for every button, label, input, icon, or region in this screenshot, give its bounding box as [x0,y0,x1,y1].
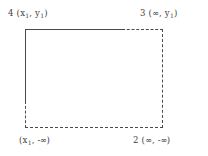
rectangle-edge-top-solid [25,29,122,30]
coord-x-symbol: ∞ [152,9,159,18]
rectangle-edge-bottom-dashed [25,127,163,128]
coord-y-subscript: 1 [40,12,44,19]
paren-close: ) [167,135,171,145]
corner-label-top-right: 3(∞, y1) [140,9,178,18]
corner-coordinate-4: (x1, y1) [17,8,48,18]
rectangle-edge-right-dashed [162,29,163,128]
coord-x-symbol: ∞ [145,136,152,145]
rectangle-edge-left-dashed [25,101,26,128]
corner-coordinate-2: (∞, -∞) [142,135,171,145]
corner-label-bottom-right: 2(∞, -∞) [133,136,170,145]
corner-index-4: 4 [8,8,14,18]
coord-x-subscript: 1 [25,12,29,19]
coord-x-subscript: 1 [28,139,32,146]
corner-label-top-left: 4(x1, y1) [8,9,48,18]
corner-coordinate-3: (∞, y1) [149,8,178,18]
corner-index-3: 3 [140,8,146,18]
rectangle-edge-top-dashed [122,29,163,30]
paren-close: ) [44,8,48,18]
rectangle-edge-left-solid [25,29,26,101]
rectangle-region-diagram: 4(x1, y1) 3(∞, y1) (x1, -∞) 2(∞, -∞) [0,0,208,156]
corner-label-bottom-left: (x1, -∞) [16,136,50,145]
corner-coordinate-1: (x1, -∞) [19,135,50,145]
coord-y-symbol: -∞ [158,136,167,145]
paren-close: ) [174,8,178,18]
paren-close: ) [46,135,50,145]
coord-x-symbol: x [23,135,28,145]
coord-y-subscript: 1 [170,12,174,19]
corner-index-2: 2 [133,135,139,145]
